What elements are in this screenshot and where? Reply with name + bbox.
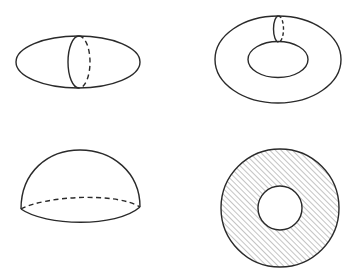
ellipsoid-figure [16, 36, 140, 88]
torus-outer-outline [215, 16, 341, 103]
annulus-inner-circle [258, 186, 302, 230]
torus-meridian-front [274, 16, 279, 42]
hemisphere-base-front [21, 207, 140, 222]
annulus-figure [219, 147, 341, 269]
ellipsoid-outline [16, 36, 140, 88]
torus-meridian-back [279, 16, 284, 42]
torus-figure [215, 16, 341, 103]
ellipsoid-meridian-back [79, 36, 90, 88]
torus-inner-outline [248, 42, 308, 78]
hemisphere-figure [21, 150, 140, 222]
ellipsoid-meridian-front [68, 36, 79, 88]
figure-canvas [0, 0, 358, 280]
hemisphere-base-back [21, 197, 140, 209]
